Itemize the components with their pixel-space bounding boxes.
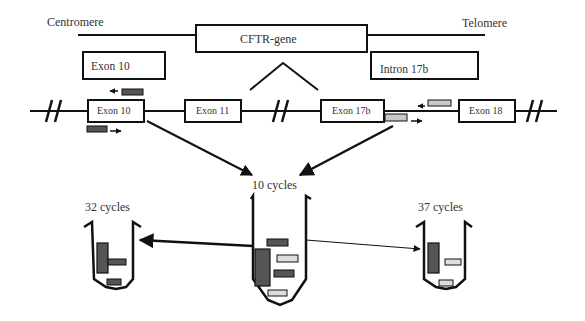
zoom-wedge [250,63,318,90]
cftr-gene-label: CFTR-gene [240,32,297,47]
tube-center [251,196,311,305]
arrow-intron17b-to-tube [300,126,393,175]
exon17b-label: Exon 17b [332,105,371,116]
tube-37-cycles [416,222,472,289]
arrow-to-37-cycles [306,240,420,249]
arrow-to-32-cycles [140,240,253,246]
tube-32-cycles [84,222,141,289]
exon18-label: Exon 18 [469,105,503,116]
37-cycles-label: 37 cycles [418,200,463,215]
intron17b-zoom-label: Intron 17b [380,63,428,75]
exon11-label: Exon 11 [196,105,229,116]
exon10-zoom-label: Exon 10 [91,60,130,72]
arrow-exon10-to-tube [147,121,252,175]
10-cycles-label: 10 cycles [252,178,297,193]
exon10-label: Exon 10 [97,105,131,116]
centromere-label: Centromere [47,15,104,30]
32-cycles-label: 32 cycles [85,200,130,215]
telomere-label: Telomere [462,16,507,31]
diagram-canvas [0,0,585,321]
